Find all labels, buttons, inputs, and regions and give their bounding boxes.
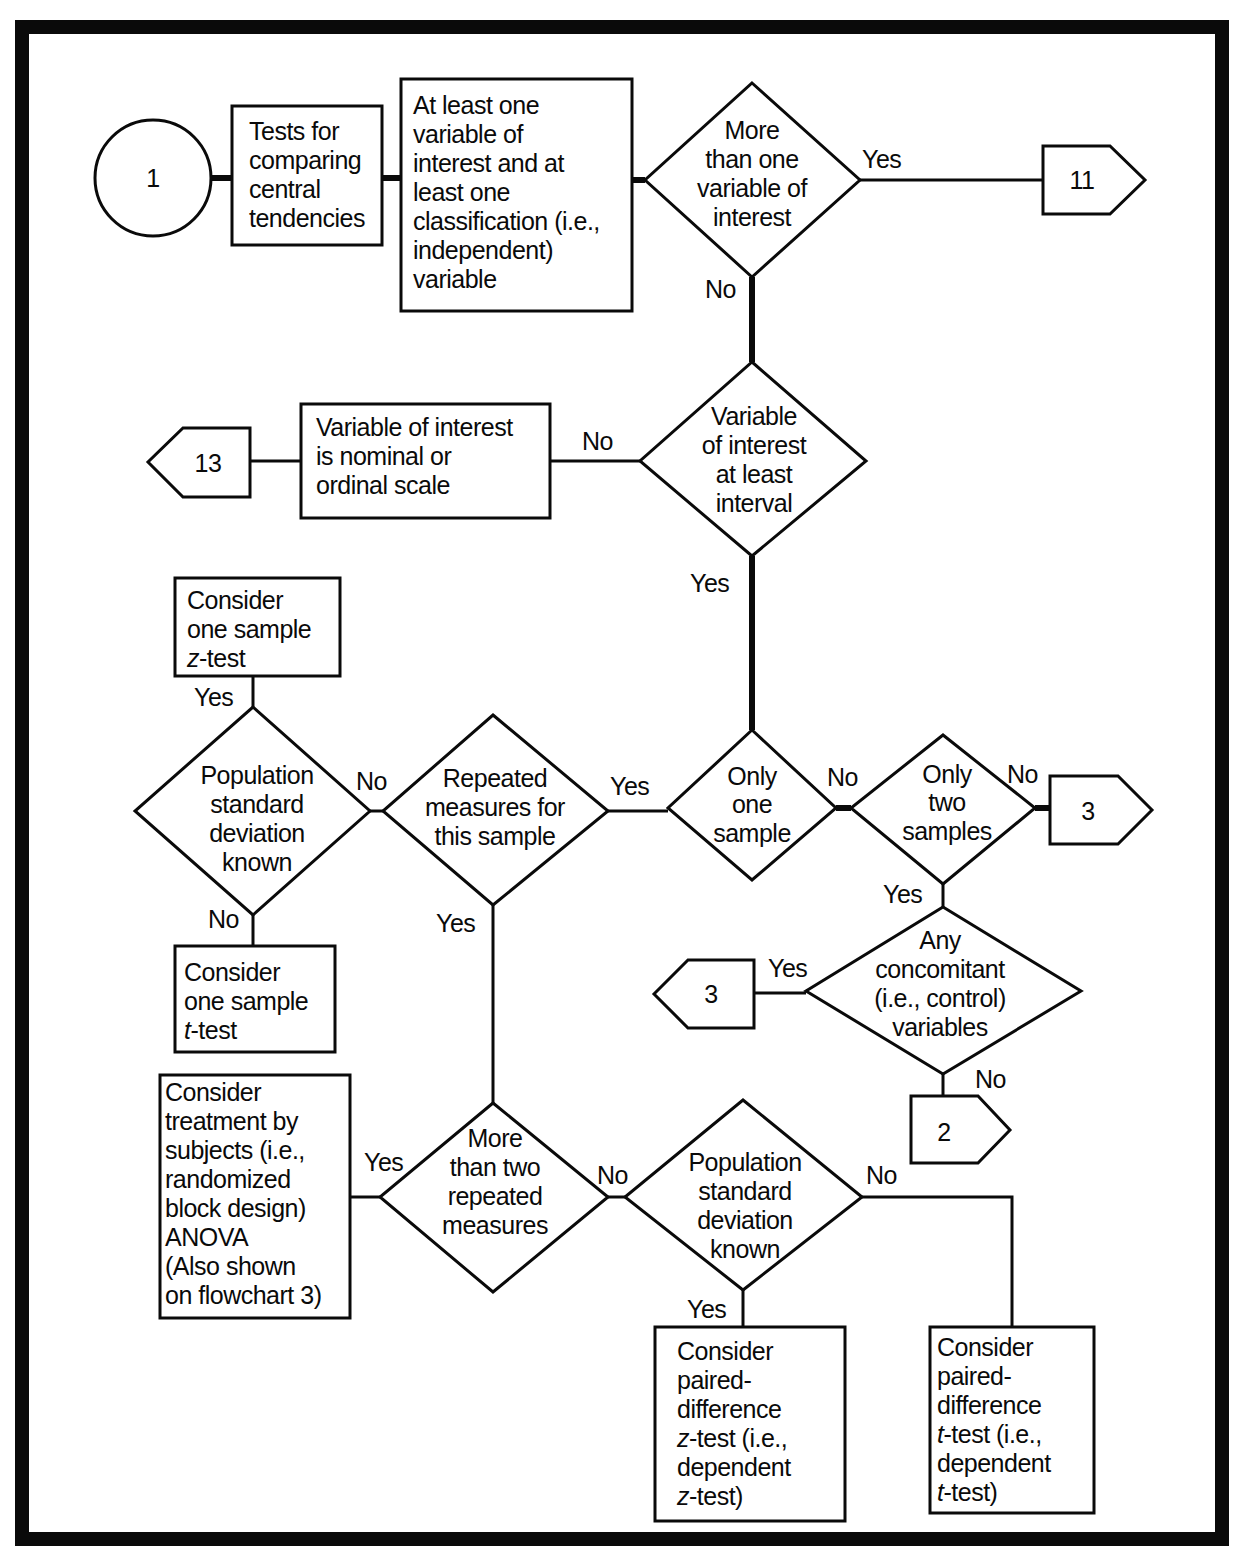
box-text: (Also shown xyxy=(165,1252,296,1280)
offpage-connector-13: 13 xyxy=(148,428,250,497)
box-text: Consider xyxy=(184,958,280,986)
decision-text: More xyxy=(468,1124,523,1152)
box-at-least-one-variable: At least one variable of interest and at… xyxy=(401,79,632,311)
decision-text: samples xyxy=(902,817,992,845)
decision-text: Only xyxy=(922,760,972,788)
box-text: block design) xyxy=(165,1194,306,1222)
decision-text: deviation xyxy=(209,819,305,847)
box-text: t-test xyxy=(184,1016,237,1044)
box-text: z-test) xyxy=(676,1482,743,1510)
decision-population-sd-known-left: Population standard deviation known xyxy=(135,707,370,915)
box-text: Consider xyxy=(187,586,283,614)
box-text: comparing xyxy=(249,146,361,174)
decision-text: at least xyxy=(716,460,793,488)
box-text: is nominal or xyxy=(316,442,451,470)
connector-label: 13 xyxy=(195,449,222,477)
box-text: one sample xyxy=(187,615,311,643)
box-paired-difference-z-test: Consider paired- difference z-test (i.e.… xyxy=(655,1327,845,1521)
box-text: paired- xyxy=(937,1362,1011,1390)
box-text: one sample xyxy=(184,987,308,1015)
branch-yes-label: Yes xyxy=(768,954,807,982)
box-text: variable xyxy=(413,265,497,293)
branch-yes-label: Yes xyxy=(862,145,901,173)
branch-no-label: No xyxy=(705,275,736,303)
decision-any-concomitant-variables: Any concomitant (i.e., control) variable… xyxy=(806,907,1081,1074)
decision-only-one-sample: Only one sample xyxy=(668,730,836,880)
branch-yes-label: Yes xyxy=(687,1295,726,1323)
box-text: variable of xyxy=(413,120,523,148)
box-text: ordinal scale xyxy=(316,471,450,499)
box-text: Consider xyxy=(165,1078,261,1106)
offpage-connector-11: 11 xyxy=(1043,146,1145,214)
decision-text: known xyxy=(222,848,292,876)
decision-text: than two xyxy=(450,1153,541,1181)
decision-more-than-two-repeated-measures: More than two repeated measures xyxy=(380,1103,608,1292)
box-text: independent) xyxy=(413,236,553,264)
offpage-connector-2: 2 xyxy=(911,1096,1010,1163)
start-node: 1 xyxy=(95,120,211,236)
decision-more-than-one-variable: More than one variable of interest xyxy=(645,83,860,277)
decision-text: measures for xyxy=(425,793,565,821)
decision-text: interest xyxy=(713,203,792,231)
decision-text: Population xyxy=(200,761,313,789)
flowchart-canvas: 1 Tests for comparing central tendencies… xyxy=(0,0,1242,1554)
decision-text: deviation xyxy=(697,1206,793,1234)
box-text: tendencies xyxy=(249,204,365,232)
box-one-sample-t-test: Consider one sample t-test xyxy=(175,946,335,1052)
decision-only-two-samples: Only two samples xyxy=(851,735,1035,884)
decision-text: sample xyxy=(713,819,791,847)
decision-text: of interest xyxy=(702,431,807,459)
box-text: least one xyxy=(413,178,510,206)
decision-text: repeated xyxy=(448,1182,543,1210)
box-nominal-or-ordinal: Variable of interest is nominal or ordin… xyxy=(301,404,550,518)
decision-text: variables xyxy=(892,1013,988,1041)
decision-text: Variable xyxy=(711,402,797,430)
decision-text: concomitant xyxy=(875,955,1005,983)
connector-label: 11 xyxy=(1070,166,1095,194)
branch-no-label: No xyxy=(827,763,858,791)
box-text: interest and at xyxy=(413,149,564,177)
decision-text: standard xyxy=(698,1177,791,1205)
decision-text: Only xyxy=(727,762,777,790)
box-text: Variable of interest xyxy=(316,413,513,441)
box-text: Consider xyxy=(937,1333,1033,1361)
box-text: central xyxy=(249,175,321,203)
decision-text: Repeated xyxy=(443,764,547,792)
decision-text: two xyxy=(928,788,965,816)
connector-label: 3 xyxy=(1081,797,1094,825)
box-text: t-test (i.e., xyxy=(937,1420,1042,1448)
offpage-connector-3-left: 3 xyxy=(654,960,754,1028)
decision-text: Any xyxy=(919,926,962,954)
decision-text: variable of xyxy=(697,174,807,202)
decision-text: this sample xyxy=(435,822,556,850)
branch-no-label: No xyxy=(582,427,613,455)
box-text: z-test (i.e., xyxy=(676,1424,787,1452)
box-text: t-test) xyxy=(937,1478,997,1506)
box-one-sample-z-test: Consider one sample z-test xyxy=(175,578,340,676)
connector-label: 2 xyxy=(937,1118,950,1146)
box-text: dependent xyxy=(937,1449,1051,1477)
branch-yes-label: Yes xyxy=(690,569,729,597)
box-text: Consider xyxy=(677,1337,773,1365)
offpage-connector-3-right: 3 xyxy=(1050,776,1152,844)
box-text: classification (i.e., xyxy=(413,207,600,235)
branch-no-label: No xyxy=(208,905,239,933)
decision-text: interval xyxy=(716,489,793,517)
decision-text: More xyxy=(725,116,780,144)
branch-yes-label: Yes xyxy=(364,1148,403,1176)
box-text: paired- xyxy=(677,1366,751,1394)
box-text: on flowchart 3) xyxy=(165,1281,321,1309)
decision-text: (i.e., control) xyxy=(874,984,1005,1012)
box-tests-for-comparing-central-tendencies: Tests for comparing central tendencies xyxy=(232,106,382,245)
box-treatment-by-subjects-anova: Consider treatment by subjects (i.e., ra… xyxy=(160,1075,350,1318)
box-text: ANOVA xyxy=(165,1223,249,1251)
box-text: randomized xyxy=(165,1165,291,1193)
decision-repeated-measures: Repeated measures for this sample xyxy=(383,715,608,905)
box-paired-difference-t-test: Consider paired- difference t-test (i.e.… xyxy=(930,1327,1094,1513)
branch-no-label: No xyxy=(597,1161,628,1189)
start-label: 1 xyxy=(146,164,159,192)
box-text: At least one xyxy=(413,91,539,119)
branch-yes-label: Yes xyxy=(194,683,233,711)
decision-population-sd-known-right: Population standard deviation known xyxy=(625,1100,862,1290)
box-text: treatment by xyxy=(165,1107,299,1135)
